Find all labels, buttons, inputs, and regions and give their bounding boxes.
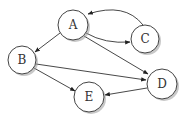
node-b: B (8, 46, 38, 76)
node-label: C (140, 32, 149, 46)
edge-b-to-d (36, 64, 146, 80)
node-c: C (131, 25, 161, 55)
node-label: A (68, 18, 78, 32)
node-label: E (85, 90, 94, 104)
node-d: D (147, 69, 179, 101)
edge-c-to-a (88, 10, 143, 25)
edge-b-to-e (34, 68, 75, 91)
node-label: D (157, 77, 167, 91)
node-a: A (58, 10, 90, 42)
edge-a-to-b (35, 33, 60, 52)
edge-d-to-e (105, 88, 147, 95)
node-e: E (74, 82, 106, 114)
directed-graph-diagram: A B C D E (0, 0, 190, 119)
node-label: B (18, 53, 27, 67)
